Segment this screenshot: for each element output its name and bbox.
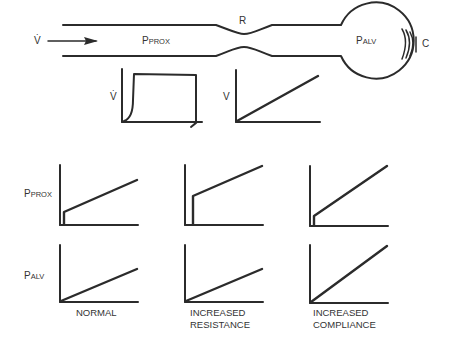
arrowhead-icon	[84, 37, 98, 45]
lung-mechanics-diagram	[0, 0, 455, 345]
volume-graph-ylabel: V	[223, 91, 230, 102]
pprox-resistance-graph	[185, 165, 263, 225]
compliance-label: C	[422, 38, 429, 49]
caption-increased-resistance: INCREASED RESISTANCE	[190, 307, 250, 331]
palv-normal-graph	[60, 245, 138, 302]
pprox-label: PPROX	[142, 35, 170, 47]
flow-label: V̇	[34, 35, 41, 46]
row-label-palv: PALV	[24, 270, 44, 282]
flow-graph	[122, 69, 202, 127]
compliance-arc-2	[406, 30, 410, 58]
palv-compliance-graph	[310, 245, 388, 303]
caption-increased-compliance: INCREASED COMPLIANCE	[313, 307, 376, 331]
resistance-label: R	[239, 15, 246, 26]
pprox-compliance-graph	[310, 166, 388, 226]
compliance-arc-1	[402, 29, 406, 59]
palv-resistance-graph	[185, 245, 263, 302]
volume-graph	[236, 70, 320, 122]
palv-label: PALV	[356, 35, 376, 47]
caption-normal: NORMAL	[76, 307, 117, 319]
pprox-normal-graph	[60, 165, 138, 225]
flow-graph-ylabel: V̇	[110, 91, 117, 102]
row-label-pprox: PPROX	[24, 188, 52, 200]
